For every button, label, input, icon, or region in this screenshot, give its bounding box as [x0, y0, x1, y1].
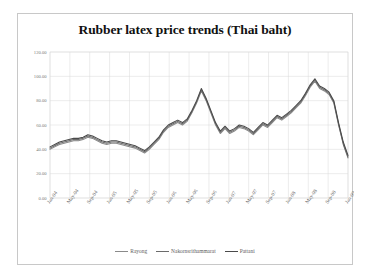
y-axis-tick-label: 80.00	[36, 98, 47, 103]
legend-item: Rayong	[115, 248, 147, 254]
legend-label: Pattani	[240, 248, 255, 254]
y-axis-tick-label: 120.00	[34, 50, 47, 55]
legend-color-swatch	[156, 251, 169, 252]
legend-color-swatch	[115, 251, 128, 252]
legend-label: Nakornsrithammarat	[171, 248, 216, 254]
chart-legend: RayongNakornsrithammaratPattani	[18, 248, 352, 254]
y-axis-tick-label: 60.00	[36, 123, 47, 128]
legend-item: Nakornsrithammarat	[156, 248, 216, 254]
chart-plot-area: 0.0020.0040.0060.0080.00100.00120.00Jan-…	[18, 14, 354, 266]
legend-label: Rayong	[130, 248, 147, 254]
chart-figure: Rubber latex price trends (Thai baht) 0.…	[17, 13, 353, 265]
y-axis-tick-label: 40.00	[36, 147, 47, 152]
y-axis-tick-label: 100.00	[34, 74, 47, 79]
legend-item: Pattani	[225, 248, 255, 254]
y-axis-tick-label: 20.00	[36, 171, 47, 176]
legend-color-swatch	[225, 251, 238, 252]
